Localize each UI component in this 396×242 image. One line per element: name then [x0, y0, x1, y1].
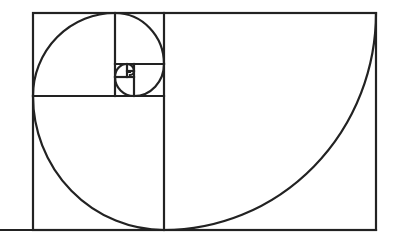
outer-golden-rectangle	[33, 13, 376, 230]
spiral-arc	[33, 13, 376, 230]
spiral-center-square	[128, 70, 131, 73]
fibonacci-spiral-diagram	[0, 0, 396, 242]
